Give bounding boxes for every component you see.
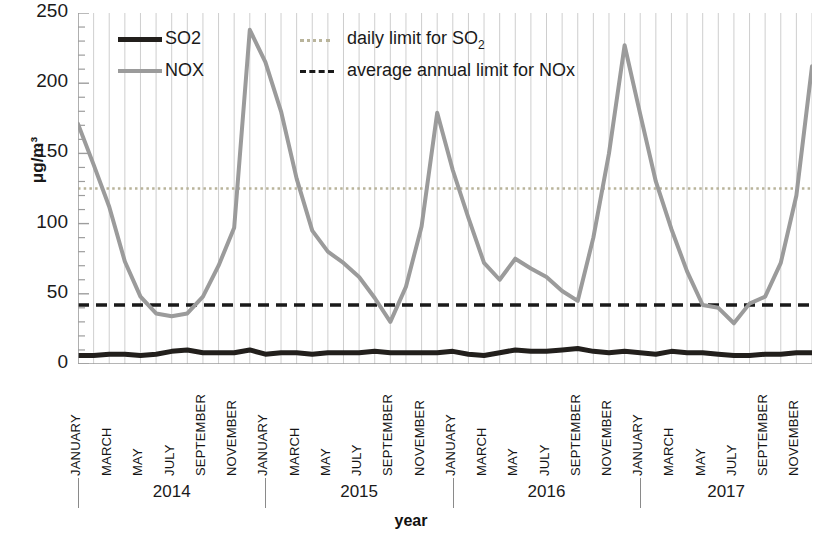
x-axis-month-label: JANUARY [255,414,270,476]
y-axis-tick-label: 100 [22,211,68,233]
x-axis-title: year [0,512,822,530]
x-axis-month-label: NOVEMBER [224,400,239,476]
year-group-separator [453,478,454,508]
x-axis-month-label: MAY [693,448,708,476]
x-axis-month-label: MAY [318,448,333,476]
x-axis-month-label: MARCH [474,427,489,476]
year-group-separator [78,478,79,508]
x-axis-month-label: JANUARY [630,414,645,476]
y-axis-tick-label: 0 [22,351,68,373]
legend-item-so2: SO2 [118,28,201,49]
x-axis-year-label: 2014 [78,482,265,502]
x-axis-year-label: 2016 [453,482,640,502]
legend-swatch-nox-line-icon [118,63,162,79]
year-group-separator [265,478,266,508]
x-axis-month-labels: JANUARYMARCHMAYJULYSEPTEMBERNOVEMBERJANU… [78,366,812,476]
x-axis-month-label: SEPTEMBER [193,394,208,476]
legend-label-so2: SO2 [165,28,201,49]
x-axis-year-labels: 2014201520162017 [78,482,812,510]
x-axis-month-label: SEPTEMBER [755,394,770,476]
y-axis-tick-label: 50 [22,281,68,303]
series-line-so2 [78,349,812,356]
x-axis-month-label: SEPTEMBER [568,394,583,476]
x-axis-month-label: JULY [724,444,739,476]
legend-swatch-dotted-line-icon [300,32,344,48]
x-axis-month-label: MAY [505,448,520,476]
year-group-separator [640,478,641,508]
y-axis-tick-label: 150 [22,140,68,162]
legend-item-nox-annual-limit: average annual limit for NOx [300,60,575,81]
x-axis-month-label: MARCH [99,427,114,476]
legend-label-so2-daily-limit-subscript: 2 [478,38,485,52]
x-axis-year-label: 2015 [265,482,452,502]
x-axis-month-label: JANUARY [68,414,83,476]
legend-item-nox: NOX [118,60,204,81]
x-axis-month-label: MARCH [287,427,302,476]
x-axis-month-label: MAY [130,448,145,476]
legend-label-so2-daily-limit: daily limit for SO2 [347,28,485,52]
legend-label-nox: NOX [165,60,204,81]
legend-item-so2-daily-limit: daily limit for SO2 [300,28,485,52]
x-axis-year-label: 2017 [640,482,812,502]
x-axis-month-label: MARCH [661,427,676,476]
y-axis-tick-label: 200 [22,70,68,92]
x-axis-month-label: JULY [537,444,552,476]
legend-label-so2-daily-limit-text: daily limit for SO [347,28,478,48]
legend-label-nox-annual-limit: average annual limit for NOx [347,60,575,81]
x-axis-month-label: JULY [349,444,364,476]
y-axis-tick-label: 250 [22,0,68,22]
y-axis-tick-labels: 050100150200250 [0,0,68,540]
x-axis-month-label: NOVEMBER [412,400,427,476]
x-axis-month-label: SEPTEMBER [380,394,395,476]
legend-swatch-so2-line-icon [118,31,162,47]
chart-container: μg/m³ 050100150200250 SO2 NOX daily limi… [0,0,822,540]
x-axis-month-label: JULY [162,444,177,476]
x-axis-month-label: JANUARY [443,414,458,476]
legend-swatch-dashed-line-icon [300,63,344,79]
x-axis-month-label: NOVEMBER [599,400,614,476]
reference-lines [78,189,812,306]
chart-legend: SO2 NOX daily limit for SO2 average annu… [118,28,678,90]
x-axis-month-label: NOVEMBER [786,400,801,476]
